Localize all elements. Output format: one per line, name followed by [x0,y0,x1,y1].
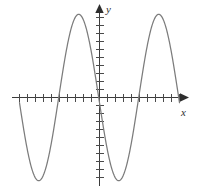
x-axis-arrowhead-icon [180,93,189,101]
x-axis-group [12,93,189,101]
y-axis-group [95,4,103,186]
graph-canvas: x y [0,0,198,190]
y-axis-label: y [105,3,111,15]
x-axis-label: x [180,106,186,118]
y-axis-arrowhead-icon [95,4,103,13]
graph-figure: x y [0,0,198,190]
